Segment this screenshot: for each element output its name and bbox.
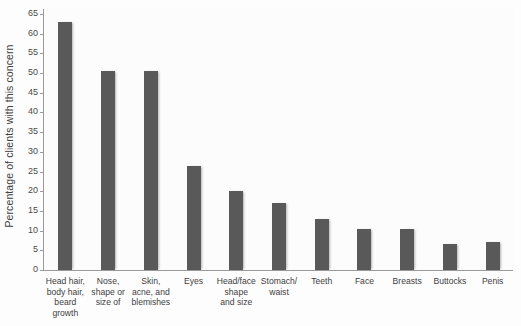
x-axis-line (43, 270, 513, 271)
x-axis-category-label: Penis (466, 276, 519, 287)
y-tick-label: 40 (14, 107, 38, 116)
bar (272, 203, 286, 270)
x-axis-category-label-line: acne, and (124, 287, 177, 298)
x-axis-category-label-line: and size (210, 297, 263, 308)
bar-slot (357, 8, 371, 270)
bar-slot (486, 8, 500, 270)
bar (357, 229, 371, 270)
y-tick-label: 25 (14, 167, 38, 176)
y-tick-label: 30 (14, 147, 38, 156)
bar-slot (315, 8, 329, 270)
bar (315, 219, 329, 270)
y-tick-label: 65 (14, 9, 38, 18)
bar-slot (144, 8, 158, 270)
bar (58, 22, 72, 270)
bar (144, 71, 158, 270)
bar-chart: Percentage of clients with this concern … (0, 0, 521, 326)
bar (443, 244, 457, 270)
bar (486, 242, 500, 270)
x-axis-category-label-line: growth (39, 308, 92, 319)
bar-slot (101, 8, 115, 270)
y-tick-label: 55 (14, 48, 38, 57)
bar-slot (229, 8, 243, 270)
y-tick-label: 5 (14, 245, 38, 254)
y-tick-label: 10 (14, 226, 38, 235)
bar (101, 71, 115, 270)
x-axis-category-label-line: blemishes (124, 297, 177, 308)
plot-area (44, 8, 514, 270)
bar (400, 229, 414, 270)
y-tick-mark (40, 270, 44, 271)
x-axis-category-label-line: waist (253, 287, 306, 298)
bar (187, 166, 201, 270)
bar-slot (58, 8, 72, 270)
x-axis-category-label-line: Penis (466, 276, 519, 287)
y-tick-label: 15 (14, 206, 38, 215)
bar-slot (187, 8, 201, 270)
y-tick-label: 0 (14, 265, 38, 274)
bar-slot (443, 8, 457, 270)
bar (229, 191, 243, 270)
y-tick-label: 60 (14, 29, 38, 38)
y-tick-label: 35 (14, 127, 38, 136)
y-tick-label: 50 (14, 68, 38, 77)
bar-slot (400, 8, 414, 270)
y-tick-label: 45 (14, 88, 38, 97)
y-tick-label: 20 (14, 186, 38, 195)
bar-slot (272, 8, 286, 270)
